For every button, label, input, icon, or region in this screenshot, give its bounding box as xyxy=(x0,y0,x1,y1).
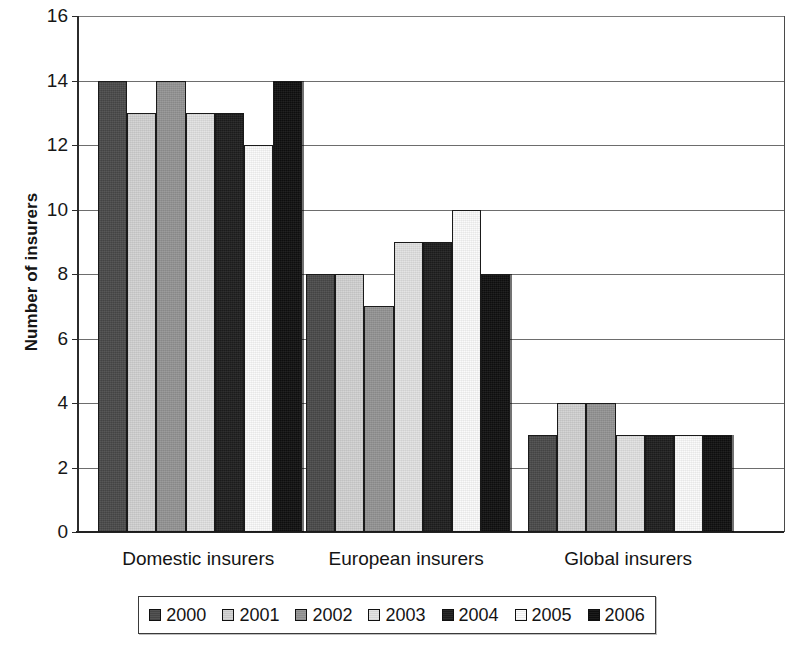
y-axis-tick xyxy=(72,403,79,404)
y-axis-tick-label: 4 xyxy=(8,393,68,412)
bar xyxy=(215,113,244,532)
legend-label: 2003 xyxy=(385,606,425,624)
bar xyxy=(645,435,674,532)
legend-item[interactable]: 2005 xyxy=(515,606,572,624)
bar xyxy=(273,81,302,533)
bar xyxy=(586,403,615,532)
bar xyxy=(423,242,452,532)
category-label: Global insurers xyxy=(501,548,755,570)
bar xyxy=(394,242,423,532)
bar xyxy=(186,113,215,532)
y-axis-tick xyxy=(72,339,79,340)
y-axis-tick xyxy=(72,468,79,469)
bar xyxy=(364,306,393,532)
y-axis-tick xyxy=(72,274,79,275)
bar-chart: Number of insurers 0246810121416 Domesti… xyxy=(0,0,794,659)
y-axis-tick-label: 14 xyxy=(8,71,68,90)
plot-area xyxy=(77,16,785,532)
bar xyxy=(306,274,335,532)
y-axis-tick xyxy=(72,210,79,211)
legend-label: 2004 xyxy=(459,606,499,624)
bar xyxy=(616,435,645,532)
bar xyxy=(98,81,127,533)
bar xyxy=(452,210,481,533)
legend-swatch-icon xyxy=(442,609,454,621)
legend-swatch-icon xyxy=(222,609,234,621)
bar xyxy=(703,435,732,532)
legend-swatch-icon xyxy=(588,609,600,621)
bar xyxy=(156,81,185,533)
bar xyxy=(481,274,510,532)
legend-swatch-icon xyxy=(515,609,527,621)
legend-label: 2001 xyxy=(239,606,279,624)
legend-label: 2005 xyxy=(532,606,572,624)
legend-item[interactable]: 2001 xyxy=(222,606,279,624)
plot-inner xyxy=(79,16,784,532)
y-axis-tick-label: 8 xyxy=(8,264,68,283)
bar xyxy=(335,274,364,532)
legend-item[interactable]: 2003 xyxy=(368,606,425,624)
bar xyxy=(244,145,273,532)
legend-swatch-icon xyxy=(295,609,307,621)
y-axis-tick-label: 0 xyxy=(8,522,68,541)
y-axis-tick-label: 12 xyxy=(8,135,68,154)
y-axis-tick xyxy=(72,16,79,17)
y-axis-tick-label: 6 xyxy=(8,329,68,348)
legend-item[interactable]: 2004 xyxy=(442,606,499,624)
legend-label: 2006 xyxy=(605,606,645,624)
legend-label: 2000 xyxy=(166,606,206,624)
bar xyxy=(674,435,703,532)
legend-item[interactable]: 2006 xyxy=(588,606,645,624)
legend: 2000200120022003200420052006 xyxy=(138,596,656,634)
bar xyxy=(528,435,557,532)
y-axis-tick-label: 10 xyxy=(8,200,68,219)
category-label: European insurers xyxy=(279,548,533,570)
bar xyxy=(557,403,586,532)
y-axis-tick xyxy=(72,81,79,82)
gridline xyxy=(79,16,784,17)
legend-item[interactable]: 2000 xyxy=(149,606,206,624)
legend-swatch-icon xyxy=(149,609,161,621)
y-axis-tick xyxy=(72,145,79,146)
bar xyxy=(127,113,156,532)
legend-swatch-icon xyxy=(368,609,380,621)
legend-label: 2002 xyxy=(312,606,352,624)
y-axis-tick-label: 16 xyxy=(8,6,68,25)
legend-item[interactable]: 2002 xyxy=(295,606,352,624)
y-axis-tick-label: 2 xyxy=(8,458,68,477)
